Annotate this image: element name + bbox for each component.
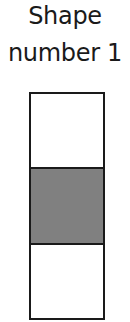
shape-cell-middle-shaded <box>31 167 103 242</box>
shape-figure <box>29 92 105 320</box>
title-line-2: number 1 <box>0 39 130 67</box>
shape-cell-top <box>31 94 103 167</box>
shape-cell-bottom <box>31 243 103 318</box>
title-line-1: Shape <box>0 2 130 30</box>
